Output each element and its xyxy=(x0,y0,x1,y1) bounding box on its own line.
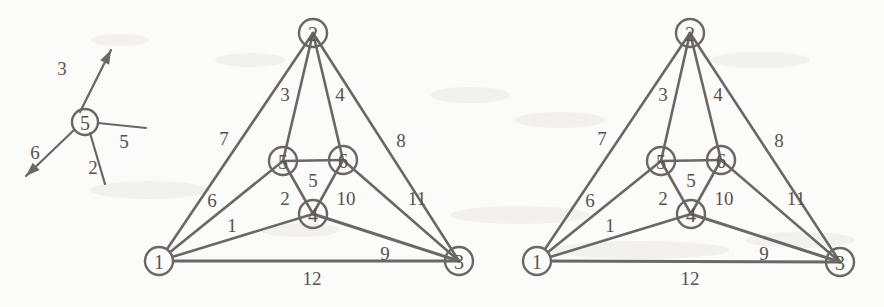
graph-right-edge-label-12: 12 xyxy=(681,268,700,289)
graph-right-edge-label-10: 10 xyxy=(715,188,734,209)
graph-right-edge-label-1: 1 xyxy=(605,215,615,236)
graph-left-edge-11[interactable] xyxy=(343,160,459,261)
graph-right-edge-label-6: 6 xyxy=(585,190,595,211)
graph-left-edge-label-3: 3 xyxy=(280,84,290,105)
figure-canvas: 3526512345678910111212345612345678910111… xyxy=(0,0,884,307)
graph-right-edge-label-7: 7 xyxy=(597,128,607,149)
inset-ray-label-5: 5 xyxy=(119,131,129,152)
graph-figure: 3526512345678910111212345612345678910111… xyxy=(0,0,884,307)
inset-ray-5 xyxy=(98,123,146,128)
orientation-inset: 35265 xyxy=(26,50,146,184)
graph-right-edge-5[interactable] xyxy=(661,160,721,161)
graph-right-node-label-2: 2 xyxy=(685,23,695,45)
graph-left-edge-6[interactable] xyxy=(159,161,283,261)
graph-left-edge-label-6: 6 xyxy=(207,190,217,211)
graph-right-edge-label-3: 3 xyxy=(658,84,668,105)
graph-right-edge-label-8: 8 xyxy=(774,130,784,151)
graph-left-node-label-1: 1 xyxy=(154,251,164,273)
graph-left-edge-label-4: 4 xyxy=(335,84,345,105)
graph-left-node-label-6: 6 xyxy=(338,150,348,172)
paper-smudge-6 xyxy=(90,34,150,46)
graph-left-edge-label-5: 5 xyxy=(308,170,318,191)
graph-right-edge-label-5: 5 xyxy=(686,170,696,191)
inset-ray-label-6: 6 xyxy=(30,142,40,163)
graph-right-edge-label-9: 9 xyxy=(759,243,769,264)
graph-left: 123456789101112123456 xyxy=(145,19,473,289)
inset-arrowhead-3 xyxy=(100,50,111,65)
paper-smudge-0 xyxy=(90,181,210,199)
graph-left-edge-5[interactable] xyxy=(283,160,343,161)
graph-right-edge-label-2: 2 xyxy=(658,188,668,209)
graph-left-edge-label-1: 1 xyxy=(227,215,237,236)
paper-smudge-1 xyxy=(215,53,285,67)
graph-left-edge-label-10: 10 xyxy=(337,188,356,209)
graph-right-node-label-6: 6 xyxy=(716,150,726,172)
graph-left-edge-label-7: 7 xyxy=(219,128,229,149)
inset-ray-label-2: 2 xyxy=(88,157,98,178)
graph-left-edge-label-11: 11 xyxy=(408,188,426,209)
inset-ray-label-3: 3 xyxy=(57,58,67,79)
graph-left-node-label-5: 5 xyxy=(278,151,288,173)
graph-left-node-label-2: 2 xyxy=(308,23,318,45)
graph-right-edge-label-4: 4 xyxy=(713,84,723,105)
graph-right-node-label-4: 4 xyxy=(686,204,696,226)
paper-smudge-2 xyxy=(430,87,510,103)
graph-right-node-label-3: 3 xyxy=(835,252,845,274)
graph-right-node-label-1: 1 xyxy=(532,251,542,273)
graph-left-edge-label-8: 8 xyxy=(396,130,406,151)
graph-right-edge-label-11: 11 xyxy=(787,188,805,209)
paper-smudge-4 xyxy=(710,52,810,68)
graph-left-edge-label-9: 9 xyxy=(380,243,390,264)
graph-left-edge-label-2: 2 xyxy=(280,188,290,209)
paper-smudge-9 xyxy=(515,112,605,128)
graph-right-node-label-5: 5 xyxy=(656,151,666,173)
graph-left-node-label-3: 3 xyxy=(454,251,464,273)
graph-left-node-label-4: 4 xyxy=(308,204,318,226)
inset-center-node-label: 5 xyxy=(80,112,90,134)
graph-left-edge-label-12: 12 xyxy=(303,268,322,289)
graph-right-edge-12[interactable] xyxy=(537,261,840,262)
paper-smudge-8 xyxy=(260,223,340,237)
